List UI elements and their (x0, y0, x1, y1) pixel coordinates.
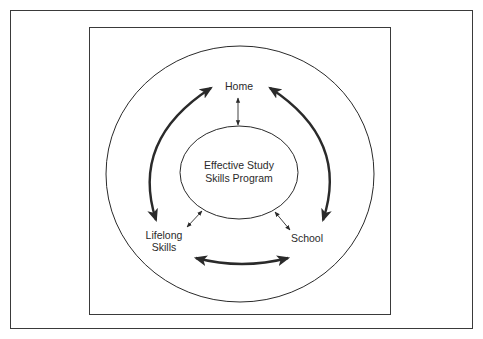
spoke-arrow-lifelong (187, 211, 202, 227)
node-school-label: School (282, 232, 332, 244)
center-node-line2: Skills Program (180, 172, 298, 185)
node-lifelong-line2: Skills (136, 241, 192, 253)
arc-arrow-lifelong-school (196, 258, 288, 264)
center-node-label: Effective Study Skills Program (180, 159, 298, 185)
node-lifelong-line1: Lifelong (136, 229, 192, 241)
node-lifelong-skills-label: Lifelong Skills (136, 229, 192, 253)
center-node-line1: Effective Study (180, 159, 298, 172)
arc-arrow-home-lifelong (150, 88, 211, 220)
node-home-label: Home (215, 80, 263, 92)
arc-arrow-home-school (270, 88, 330, 220)
spoke-arrow-school (275, 212, 290, 230)
figure-caption-clipped (8, 333, 208, 339)
